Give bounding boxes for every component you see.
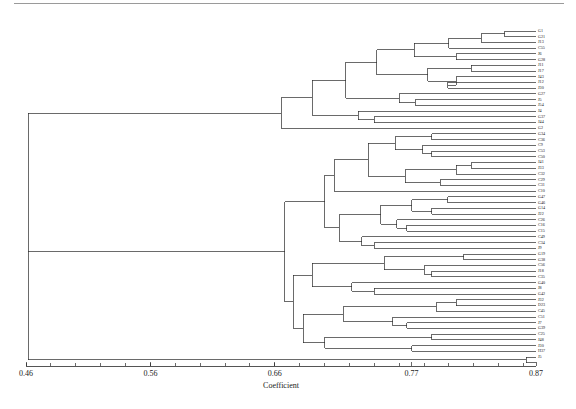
x-axis-tick-label: 0.56 [143,369,157,378]
dendrogram-leaf-label: C26 [538,217,545,222]
dendrogram-leaf-label: G46 [538,200,545,205]
dendrogram-figure: G1G21J13C55J6G28J11J17J43J12J30G27J5J54J… [0,0,576,409]
dendrogram-leaf-label: G47 [538,194,545,199]
dendrogram-leaf-label: J43 [538,74,544,79]
dendrogram-leaf-label: J12 [538,79,544,84]
x-axis-tick-label: 0.66 [268,369,282,378]
dendrogram-leaf-label: G34 [538,131,545,136]
dendrogram-leaf-label: C31 [538,182,545,187]
dendrogram-leaf-label: C36 [538,137,545,142]
dendrogram-leaf-label: C9 [538,142,543,147]
x-axis-tick-label: 0.46 [19,369,33,378]
dendrogram-leaf-label: J11 [538,62,544,67]
dendrogram-leaf-label: C35 [538,274,545,279]
x-axis: 0.460.560.660.770.87Coefficient [19,362,543,391]
dendrogram-leaf-label: J9 [538,245,542,250]
dendrogram-leaf-label: G19 [538,251,545,256]
dendrogram-leaf-label: C34 [538,240,545,245]
dendrogram-leaf-label: J7 [538,320,542,325]
dendrogram-leaf-label: J5 [538,354,542,359]
dendrogram-leaf-label: G39 [538,325,545,330]
dendrogram-leaf-label: G21 [538,34,545,39]
dendrogram-leaf-label: J18 [538,268,544,273]
dendrogram-leaf-label: J44 [538,119,544,124]
x-axis-title: Coefficient [263,381,300,390]
dendrogram-leaf-label: G37 [538,114,545,119]
dendrogram-leaf-label: C10 [538,188,545,193]
dendrogram-leaf-label: C53 [538,148,545,153]
dendrogram-leaf-label: G1 [538,28,543,33]
dendrogram-leaf-label: G42 [538,291,545,296]
dendrogram-leaf-label: G40 [538,280,545,285]
dendrogram-leaf-label: J4 [538,108,542,113]
dendrogram-leaf-label: J54 [538,102,544,107]
dendrogram-leaf-label: C45 [538,308,545,313]
dendrogram-leaf-label: C29 [538,177,545,182]
dendrogram-leaf-label: C55 [538,45,545,50]
dendrogram-leaf-label: G27 [538,91,545,96]
dendrogram-leaf-label: D23 [538,302,545,307]
dendrogram-leaf-label: C32 [538,171,545,176]
dendrogram-leaf-label: J33 [538,165,544,170]
dendrogram-leaf-label: G2 [538,125,543,130]
dendrogram-leaf-label: J30 [538,85,544,90]
dendrogram-leaf-label: J17 [538,68,544,73]
x-axis-tick-label: 0.87 [529,369,543,378]
dendrogram-leaf-label: J22 [538,211,544,216]
dendrogram-leaf-label: G14 [538,205,545,210]
x-axis-tick-label: 0.77 [405,369,419,378]
dendrogram-leaf-label: J8 [538,285,542,290]
dendrogram-leaf-label: J48 [538,337,544,342]
dendrogram-leaf-label: G38 [538,257,545,262]
dendrogram-leaf-label: J13 [538,39,544,44]
dendrogram-leaf-label: H37 [538,348,545,353]
dendrogram-leaf-label: J32 [538,297,544,302]
dendrogram-leaf-label: C15 [538,228,545,233]
dendrogram-leaf-label: C51 [538,314,545,319]
dendrogram-leaf-label: C50 [538,154,545,159]
dendrogram-leaf-label: J5 [538,97,542,102]
dendrogram-links [28,31,536,363]
dendrogram-leaf-labels: G1G21J13C55J6G28J11J17J43J12J30G27J5J54J… [538,28,545,359]
dendrogram-leaf-label: J41 [538,159,544,164]
dendrogram-leaf-label: J6 [538,51,542,56]
dendrogram-leaf-label: G28 [538,57,545,62]
dendrogram-leaf-label: C56 [538,262,545,267]
dendrogram-leaf-label: C49 [538,234,545,239]
dendrogram-leaf-label: J30 [538,343,544,348]
dendrogram-leaf-label: C25 [538,331,545,336]
dendrogram-leaf-label: C16 [538,222,545,227]
dendrogram-plot: G1G21J13C55J6G28J11J17J43J12J30G27J5J54J… [0,0,576,409]
